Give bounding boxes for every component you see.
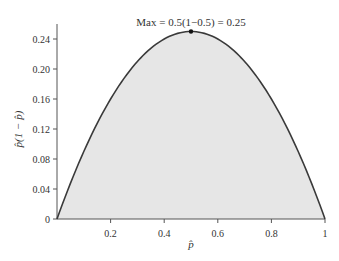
y-tick-label: 0.04	[33, 184, 51, 195]
max-point-marker	[189, 29, 193, 33]
x-tick-label: 0.4	[158, 228, 171, 239]
y-tick-label: 0	[45, 214, 50, 225]
y-tick-label: 0.20	[33, 64, 51, 75]
y-axis-label: p̂(1 − p̂)	[12, 110, 25, 148]
x-tick-label: 0.2	[104, 228, 117, 239]
max-annotation: Max = 0.5(1−0.5) = 0.25	[136, 16, 246, 29]
chart: 00.040.080.120.160.200.24 0.20.40.60.81 …	[0, 0, 339, 261]
x-tick-label: 1	[323, 228, 328, 239]
x-ticks: 0.20.40.60.81	[104, 219, 327, 239]
y-ticks: 00.040.080.120.160.200.24	[33, 34, 58, 225]
x-tick-label: 0.6	[212, 228, 225, 239]
x-axis-label: p̂	[187, 238, 194, 250]
x-tick-label: 0.8	[265, 228, 278, 239]
y-tick-label: 0.12	[33, 124, 51, 135]
y-tick-label: 0.24	[33, 34, 51, 45]
y-tick-label: 0.08	[33, 154, 51, 165]
area-fill	[57, 32, 325, 220]
y-tick-label: 0.16	[33, 94, 51, 105]
